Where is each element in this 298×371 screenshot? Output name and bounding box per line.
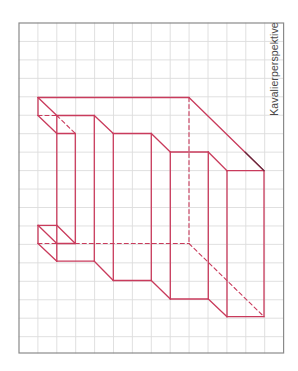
cavalier-perspective-figure xyxy=(0,0,298,371)
figure-label: Kavalierperspektive xyxy=(268,22,280,116)
background xyxy=(0,0,298,371)
